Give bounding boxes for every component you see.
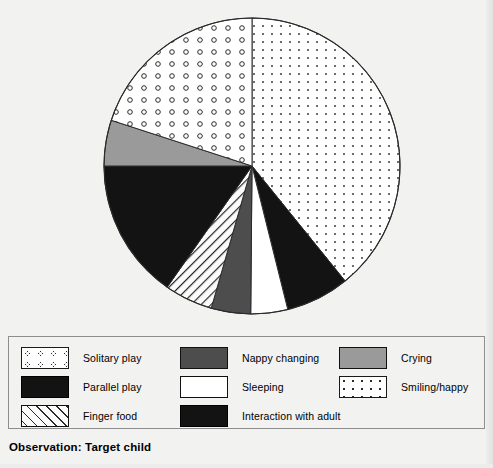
legend-label-parallel-play: Parallel play bbox=[83, 381, 142, 393]
observation-pie-figure: Solitary play Parallel play Finger food … bbox=[0, 0, 493, 468]
page-edge-bottom bbox=[0, 464, 493, 468]
legend-item-crying[interactable]: Crying bbox=[339, 346, 432, 370]
page-edge-right bbox=[486, 0, 493, 468]
legend-label-solitary-play: Solitary play bbox=[83, 352, 142, 364]
pie-slice-group bbox=[104, 18, 400, 314]
legend-swatch-finger-food bbox=[21, 405, 69, 427]
legend-swatch-solitary-play bbox=[21, 347, 69, 369]
legend-item-nappy-changing[interactable]: Nappy changing bbox=[180, 346, 319, 370]
legend-swatch-crying bbox=[339, 347, 387, 369]
figure-caption: Observation: Target child bbox=[9, 441, 151, 453]
legend-label-sleeping: Sleeping bbox=[242, 381, 284, 393]
legend-item-sleeping[interactable]: Sleeping bbox=[180, 375, 284, 399]
legend-swatch-interaction-with-adult bbox=[180, 405, 228, 427]
legend-label-smiling-happy: Smiling/happy bbox=[401, 381, 468, 393]
legend-swatch-nappy-changing bbox=[180, 347, 228, 369]
legend-label-finger-food: Finger food bbox=[83, 410, 137, 422]
legend-label-nappy-changing: Nappy changing bbox=[242, 352, 319, 364]
legend-swatch-smiling-happy bbox=[339, 376, 387, 398]
legend-label-crying: Crying bbox=[401, 352, 432, 364]
legend-item-finger-food[interactable]: Finger food bbox=[21, 404, 137, 428]
legend-item-interaction-with-adult[interactable]: Interaction with adult bbox=[180, 404, 341, 428]
legend-label-interaction-with-adult: Interaction with adult bbox=[242, 410, 341, 422]
pie-chart bbox=[0, 0, 493, 330]
legend-item-smiling-happy[interactable]: Smiling/happy bbox=[339, 375, 468, 399]
legend-item-parallel-play[interactable]: Parallel play bbox=[21, 375, 142, 399]
legend-swatch-parallel-play bbox=[21, 376, 69, 398]
pie-chart-svg bbox=[0, 0, 493, 332]
legend-swatch-sleeping bbox=[180, 376, 228, 398]
legend-item-solitary-play[interactable]: Solitary play bbox=[21, 346, 142, 370]
legend: Solitary play Parallel play Finger food … bbox=[8, 336, 485, 429]
